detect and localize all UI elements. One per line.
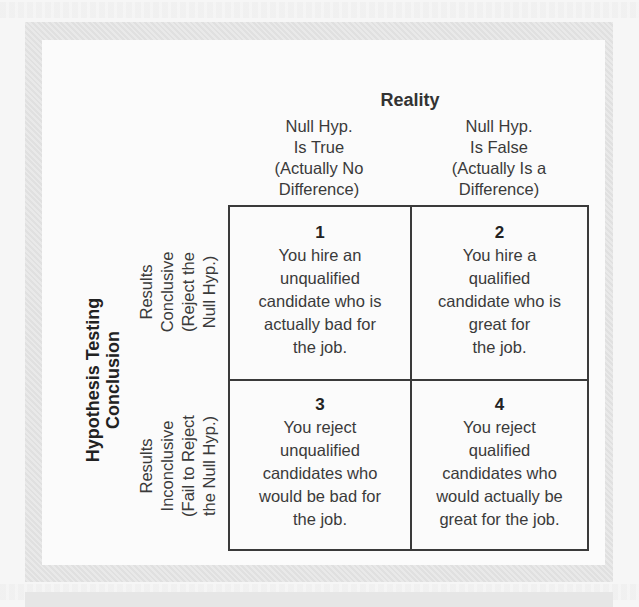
row-axis-title: Hypothesis Testing Conclusion [83, 290, 127, 470]
cell-line: the job. [230, 336, 410, 359]
column-header-line: Difference) [414, 179, 584, 200]
column-header-line: (Actually No [234, 158, 404, 179]
column-header-line: Null Hyp. [234, 116, 404, 137]
column-header-line: Is True [234, 137, 404, 158]
grid-divider-horizontal [230, 379, 587, 381]
cell-line: the job. [412, 336, 587, 359]
cell-line: You hire a [412, 244, 587, 267]
row-axis-title-line: Conclusion [103, 290, 123, 470]
cell-line: qualified [412, 267, 587, 290]
cell-line: unqualified [230, 267, 410, 290]
cell-4: 4 You reject qualified candidates who wo… [412, 393, 587, 531]
cell-line: You hire an [230, 244, 410, 267]
row-label-line: Inconclusive [157, 391, 178, 541]
cell-line: unqualified [230, 439, 410, 462]
cell-line: great for the job. [412, 508, 587, 531]
outcome-matrix: 1 You hire an unqualified candidate who … [228, 205, 589, 551]
row-label-conclusive: Results Conclusive (Reject the Null Hyp.… [136, 222, 220, 362]
background-text [0, 2, 639, 18]
row-label-line: Results [136, 391, 157, 541]
column-header-line: Is False [414, 137, 584, 158]
row-label-line: Results [136, 222, 157, 362]
column-header-line: (Actually Is a [414, 158, 584, 179]
cell-number: 4 [412, 393, 587, 416]
figure-frame-bottom [25, 592, 613, 607]
row-axis-title-line: Hypothesis Testing [83, 290, 103, 470]
cell-1: 1 You hire an unqualified candidate who … [230, 221, 410, 359]
cell-line: candidates who [412, 462, 587, 485]
column-header-null-false: Null Hyp. Is False (Actually Is a Differ… [414, 116, 584, 200]
cell-line: would actually be [412, 485, 587, 508]
cell-line: candidate who is [230, 290, 410, 313]
column-header-line: Null Hyp. [414, 116, 584, 137]
cell-line: actually bad for [230, 313, 410, 336]
cell-line: You reject [412, 416, 587, 439]
cell-line: candidate who is [412, 290, 587, 313]
row-label-line: the Null Hyp.) [199, 391, 220, 541]
cell-line: would be bad for [230, 485, 410, 508]
row-label-line: Conclusive [157, 222, 178, 362]
cell-number: 2 [412, 221, 587, 244]
column-header-line: Difference) [234, 179, 404, 200]
cell-line: You reject [230, 416, 410, 439]
cell-2: 2 You hire a qualified candidate who is … [412, 221, 587, 359]
cell-line: qualified [412, 439, 587, 462]
cell-number: 1 [230, 221, 410, 244]
column-header-null-true: Null Hyp. Is True (Actually No Differenc… [234, 116, 404, 200]
row-label-inconclusive: Results Inconclusive (Fail to Reject the… [136, 391, 220, 541]
row-label-line: (Fail to Reject [178, 391, 199, 541]
cell-3: 3 You reject unqualified candidates who … [230, 393, 410, 531]
column-axis-title: Reality [330, 90, 490, 111]
cell-line: candidates who [230, 462, 410, 485]
cell-line: great for [412, 313, 587, 336]
cell-line: the job. [230, 508, 410, 531]
cell-number: 3 [230, 393, 410, 416]
row-label-line: Null Hyp.) [199, 222, 220, 362]
row-label-line: (Reject the [178, 222, 199, 362]
